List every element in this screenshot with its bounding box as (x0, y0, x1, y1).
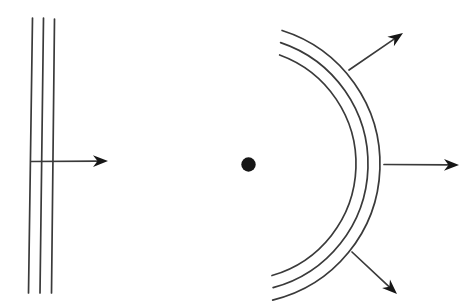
wavefront-diagram (0, 0, 471, 308)
ray-shaft (349, 38, 395, 70)
spherical-ray-arrows (349, 33, 459, 294)
point-source-dot (241, 157, 255, 171)
wavefront-line (29, 18, 33, 293)
plane-wavefront-lines (29, 18, 55, 293)
wavefront-diagram-canvas (0, 0, 471, 308)
ray-shaft (352, 252, 390, 288)
source-dot (241, 157, 255, 171)
wavefront-line (52, 19, 55, 293)
wavefront-line (40, 18, 44, 293)
arrowhead (387, 33, 403, 46)
spherical-wavefront-arcs (272, 30, 380, 300)
